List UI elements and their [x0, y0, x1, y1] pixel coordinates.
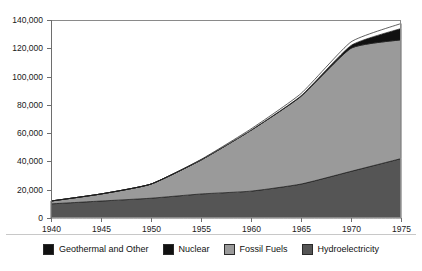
y-tick-label: 140,000: [12, 15, 43, 25]
x-tick-label: 1965: [292, 224, 311, 234]
legend-label: Hydroelectricity: [318, 244, 380, 255]
legend-label: Geothermal and Other: [59, 244, 149, 255]
y-tick-label: 100,000: [12, 72, 43, 82]
legend-label: Nuclear: [179, 244, 210, 255]
chart-legend: Geothermal and OtherNuclearFossil FuelsH…: [0, 238, 422, 260]
x-tick-label: 1955: [192, 224, 211, 234]
legend-swatch-icon: [302, 244, 313, 255]
x-tick-group: 19401945195019551960196519701975: [42, 218, 411, 234]
x-tick-label: 1945: [92, 224, 111, 234]
legend-swatch-icon: [43, 244, 54, 255]
y-tick-label: 80,000: [17, 100, 43, 110]
y-tick-label: 20,000: [17, 185, 43, 195]
y-tick-group: 020,00040,00060,00080,000100,000120,0001…: [12, 15, 51, 223]
chart-canvas: 020,00040,00060,00080,000100,000120,0001…: [0, 0, 422, 271]
legend-entry[interactable]: Geothermal and Other: [43, 244, 149, 255]
y-tick-label: 60,000: [17, 128, 43, 138]
legend-entry[interactable]: Fossil Fuels: [224, 244, 288, 255]
x-tick-label: 1970: [342, 224, 361, 234]
legend-entry[interactable]: Nuclear: [163, 244, 210, 255]
x-tick-label: 1950: [142, 224, 161, 234]
x-tick-label: 1960: [242, 224, 261, 234]
legend-entry[interactable]: Hydroelectricity: [302, 244, 380, 255]
legend-label: Fossil Fuels: [240, 244, 288, 255]
stacked-area-chart: 020,00040,00060,00080,000100,000120,0001…: [0, 0, 422, 271]
y-tick-label: 0: [38, 213, 43, 223]
y-tick-label: 40,000: [17, 156, 43, 166]
legend-swatch-icon: [163, 244, 174, 255]
legend-separator: [6, 234, 416, 235]
legend-swatch-icon: [224, 244, 235, 255]
y-tick-label: 120,000: [12, 43, 43, 53]
x-tick-label: 1975: [392, 224, 411, 234]
x-tick-label: 1940: [42, 224, 61, 234]
